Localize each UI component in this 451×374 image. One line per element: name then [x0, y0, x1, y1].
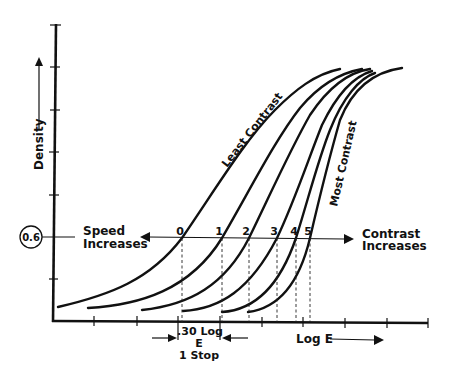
curve-markers: 0 1 2 3 4 5 [176, 225, 312, 238]
y-axis-label-group: Density [32, 57, 46, 170]
y-axis-label: Density [32, 118, 46, 170]
y-axis [53, 24, 56, 322]
marker-4: 4 [290, 225, 298, 238]
arrow-left-icon [222, 334, 231, 342]
arrow-right-icon [168, 334, 177, 342]
marker-5: 5 [304, 225, 312, 238]
interval-label-line3: 1 Stop [179, 349, 219, 362]
speed-label-line2: Increases [83, 237, 148, 251]
arrow-right-icon [344, 234, 354, 244]
contrast-label-line2: Increases [362, 239, 427, 253]
marker-3: 3 [270, 225, 278, 238]
reference-density-label: 0.6 [22, 232, 40, 243]
least-contrast-label: Least Contrast [219, 90, 285, 170]
marker-1: 1 [215, 225, 223, 238]
marker-2: 2 [242, 225, 250, 238]
x-axis [52, 321, 428, 323]
reference-density: 0.6 [20, 226, 75, 248]
interval-annotation: .30 Log E 1 Stop [152, 325, 248, 362]
arrow-up-icon [35, 57, 43, 66]
marker-0: 0 [176, 225, 184, 238]
arrow-right-icon [374, 335, 384, 345]
characteristic-curve-diagram: Density 0.6 Speed Increases Contrast Inc… [0, 0, 451, 374]
speed-label-line1: Speed [83, 224, 125, 238]
curves [58, 68, 402, 312]
x-axis-label: Log E [296, 332, 333, 346]
most-contrast-label: Most Contrast [327, 119, 359, 207]
x-axis-label-group: Log E [296, 332, 384, 346]
